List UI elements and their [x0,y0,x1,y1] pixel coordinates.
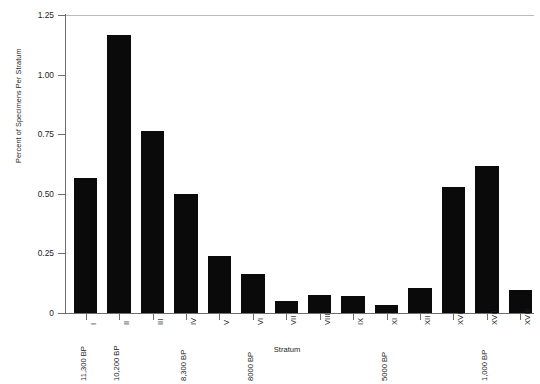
x-axis-tick-label: III [156,319,165,325]
bars-layer [65,15,534,313]
x-axis-tick [487,313,488,320]
x-axis-tick [387,313,388,320]
x-axis-tick-label: VII [289,316,298,325]
bar [275,301,298,313]
y-axis-tick-label: 1.00 [8,70,54,80]
bar [308,295,331,313]
y-axis-tick-label: 1.25 [8,10,54,20]
x-axis-tick [420,313,421,320]
bar [107,35,130,313]
x-axis-tick [353,313,354,320]
bar [174,194,197,313]
x-axis-tick-label: II [122,321,131,325]
x-axis-title: Stratum [274,345,301,354]
date-annotation-label: 10,200 BP [112,346,121,381]
x-axis-tick-label: XVIII [523,309,532,325]
x-axis-tick-label: XVI [456,313,465,325]
x-axis-tick [186,313,187,320]
date-annotation-label: 11,300 BP [79,346,88,381]
y-axis-tick [58,313,66,314]
bar [442,187,465,313]
x-axis-tick-label: XI [390,318,399,325]
y-axis-tick-label: 0.75 [8,129,54,139]
date-annotation-label: 1,000 BP [480,350,489,381]
bar [341,296,364,313]
bar [475,166,498,313]
x-axis-tick [520,313,521,320]
x-axis-tick-label: VIII [323,314,332,325]
x-axis-tick [453,313,454,320]
x-axis-tick-label: I [89,323,98,325]
date-annotation-label: 5000 BP [380,352,389,381]
x-axis-tick [320,313,321,320]
bar [208,256,231,313]
y-axis-tick-label: 0.25 [8,248,54,258]
x-axis-tick-label: IX [356,318,365,325]
x-axis-tick [119,313,120,320]
x-axis-tick [86,313,87,320]
date-annotation-label: 8,300 BP [179,350,188,381]
x-axis-tick [286,313,287,320]
bar [375,305,398,313]
x-axis-tick-label: V [222,320,231,325]
date-annotation-label: 8000 BP [246,352,255,381]
x-axis-tick-label: VI [256,318,265,325]
y-axis-tick-label: 0.50 [8,189,54,199]
x-axis-tick [219,313,220,320]
x-axis-tick-label: XVII [490,311,499,325]
bar [141,131,164,313]
bar [408,288,431,313]
x-axis-tick [153,313,154,320]
bar [241,274,264,313]
x-axis-tick-label: IV [189,318,198,325]
y-axis-tick-label: 0 [8,308,54,318]
bar [74,178,97,313]
x-axis-tick-label: XII [423,316,432,325]
bar-chart: Percent of Specimens Per Stratum 00.250.… [0,0,540,384]
x-axis-tick [253,313,254,320]
